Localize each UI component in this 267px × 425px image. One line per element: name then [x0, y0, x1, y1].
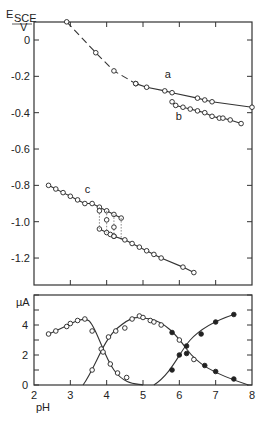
y-tick-label: 0 [22, 379, 28, 391]
data-point [152, 252, 157, 257]
data-point [228, 118, 233, 123]
data-point [124, 375, 129, 380]
data-point [213, 320, 218, 325]
data-point [112, 69, 117, 74]
y-tick-label: -0.2 [11, 70, 30, 82]
data-point [97, 208, 102, 213]
data-point [181, 265, 186, 270]
data-point [159, 256, 164, 261]
data-point [170, 368, 175, 373]
data-point [170, 90, 175, 95]
data-point [213, 369, 218, 374]
data-point [170, 330, 175, 335]
y-axis-label-ua: µA [16, 296, 30, 308]
data-point [159, 323, 164, 328]
data-point [199, 332, 204, 337]
data-point [54, 329, 59, 334]
data-point [177, 353, 182, 358]
data-point [210, 114, 215, 119]
data-point [101, 350, 106, 355]
curve-label-c: c [85, 183, 91, 195]
x-tick-label: 8 [249, 389, 255, 401]
data-point [192, 357, 197, 362]
data-point [188, 107, 193, 112]
data-point [112, 225, 117, 230]
data-point [112, 234, 117, 239]
data-point [75, 318, 80, 323]
data-point [210, 99, 215, 104]
data-point [232, 312, 237, 317]
x-tick-label: 4 [104, 389, 110, 401]
x-tick-label: 5 [140, 389, 146, 401]
y-tick-label: -0.8 [11, 179, 30, 191]
data-point [202, 98, 207, 103]
data-point [221, 116, 226, 121]
data-point [152, 320, 157, 325]
x-tick-label: 3 [67, 389, 73, 401]
data-point [54, 187, 59, 192]
data-point [83, 201, 88, 206]
y-axis-label-e: E [6, 8, 13, 20]
data-point [123, 326, 128, 331]
data-point [113, 329, 118, 334]
data-point [202, 363, 207, 368]
y-axis-label-unit: V [20, 21, 28, 33]
x-tick-label: 2 [31, 389, 37, 401]
data-point [192, 270, 197, 275]
data-point [104, 218, 109, 223]
data-point [130, 317, 135, 322]
data-point [170, 99, 175, 104]
y-tick-label: -1.0 [11, 216, 30, 228]
data-point [90, 201, 95, 206]
data-point [123, 238, 128, 243]
x-axis-label: pH [36, 401, 50, 413]
x-tick-label: 7 [213, 389, 219, 401]
data-point [68, 321, 73, 326]
data-point [144, 248, 149, 253]
data-point [90, 329, 95, 334]
y-tick-label: -0.6 [11, 143, 30, 155]
data-point [61, 190, 66, 195]
y-tick-label: 2 [22, 349, 28, 361]
data-point [46, 332, 51, 337]
data-point [202, 110, 207, 115]
data-point [75, 198, 80, 203]
lower-plot-frame [34, 295, 252, 385]
polarography-chart: 2345678pH0-0.2-0.4-0.6-0.8-1.0-1.2ESCEV0… [0, 0, 267, 425]
data-point [195, 109, 200, 114]
data-point [137, 245, 142, 250]
data-point [163, 89, 168, 94]
data-point [106, 335, 111, 340]
data-point [173, 103, 178, 108]
data-point [90, 368, 95, 373]
y-tick-label: -1.2 [11, 252, 30, 264]
data-point [239, 121, 244, 126]
data-point [93, 50, 98, 55]
data-point [195, 96, 200, 101]
data-point [130, 241, 135, 246]
x-tick-label: 6 [176, 389, 182, 401]
data-point [181, 105, 186, 110]
curve-label-a: a [165, 68, 172, 80]
y-tick-label: -0.4 [11, 107, 30, 119]
data-point [115, 371, 120, 376]
data-point [68, 194, 73, 199]
data-point [46, 183, 51, 188]
curve-label-b: b [176, 110, 182, 122]
data-point [108, 362, 113, 367]
data-point [64, 20, 69, 25]
data-point [83, 317, 88, 322]
data-point [133, 81, 138, 86]
data-point [177, 338, 182, 343]
data-point [184, 344, 189, 349]
y-tick-label: 4 [22, 319, 28, 331]
data-point [232, 377, 237, 382]
data-point [184, 351, 189, 356]
upper-plot-frame [34, 22, 252, 285]
data-point [141, 315, 146, 320]
data-point [144, 85, 149, 90]
y-tick-label: 0 [24, 34, 30, 46]
data-point [250, 105, 255, 110]
